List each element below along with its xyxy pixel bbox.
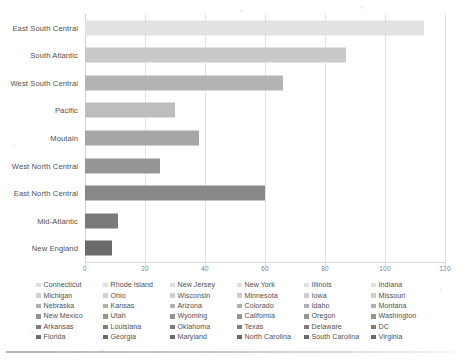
legend-item: Colorado — [237, 301, 302, 311]
legend-label: DC — [379, 323, 389, 331]
legend-label: Virginia — [379, 333, 403, 341]
bar-row: Moutain — [85, 124, 445, 152]
legend-label: Montana — [379, 302, 407, 310]
category-label: East South Central — [12, 23, 78, 32]
bar-row: East North Central — [85, 179, 445, 207]
bar-row: West North Central — [85, 152, 445, 180]
chart-legend: ConnecticutMichiganNebraskaNew MexicoArk… — [36, 280, 436, 342]
legend-label: Texas — [245, 323, 264, 331]
legend-label: California — [245, 312, 275, 320]
bar-row: Pacific — [85, 97, 445, 125]
bar-row: East South Central — [85, 14, 445, 42]
legend-item: Ohio — [103, 290, 168, 300]
legend-label: Indiana — [379, 281, 403, 289]
legend-swatch — [170, 304, 175, 309]
legend-label: Delaware — [312, 323, 342, 331]
legend-swatch — [237, 304, 242, 309]
legend-label: Kansas — [111, 302, 135, 310]
legend-item: Arkansas — [36, 322, 101, 332]
legend-label: Louisiana — [111, 323, 142, 331]
legend-swatch — [103, 335, 108, 340]
legend-label: North Carolina — [245, 333, 291, 341]
legend-label: Minnesota — [245, 292, 278, 300]
legend-label: Maryland — [178, 333, 208, 341]
bar — [85, 241, 112, 256]
x-axis-tick-label: 0 — [83, 265, 87, 272]
legend-item: Nebraska — [36, 301, 101, 311]
legend-item: Connecticut — [36, 280, 101, 290]
legend-swatch — [103, 325, 108, 330]
category-label: Pacific — [55, 106, 78, 115]
legend-swatch — [304, 304, 309, 309]
legend-swatch — [103, 304, 108, 309]
legend-item: Virginia — [371, 332, 436, 342]
legend-label: Wyoming — [178, 312, 208, 320]
x-axis-tick-label: 120 — [439, 265, 450, 272]
legend-label: Oklahoma — [178, 323, 211, 331]
legend-label: Arkansas — [44, 323, 74, 331]
legend-label: Florida — [44, 333, 66, 341]
legend-item: Utah — [103, 311, 168, 321]
legend-item: Delaware — [304, 322, 369, 332]
legend-swatch — [371, 335, 376, 340]
legend-swatch — [304, 293, 309, 298]
category-label: New England — [32, 244, 78, 253]
legend-item: Wisconsin — [170, 290, 235, 300]
legend-label: Washington — [379, 312, 417, 320]
category-label: West South Central — [10, 78, 78, 87]
legend-swatch — [36, 304, 41, 309]
bar — [85, 103, 175, 118]
legend-item: Wyoming — [170, 311, 235, 321]
legend-item: Georgia — [103, 332, 168, 342]
category-label: Mid-Atlantic — [37, 216, 78, 225]
legend-swatch — [36, 335, 41, 340]
category-label: South Atlantic — [30, 51, 78, 60]
grid-line — [445, 14, 446, 262]
legend-label: Georgia — [111, 333, 137, 341]
legend-item: New Jersey — [170, 280, 235, 290]
category-label: Moutain — [50, 133, 78, 142]
legend-swatch — [237, 335, 242, 340]
bar — [85, 75, 283, 90]
legend-swatch — [371, 283, 376, 288]
bar — [85, 213, 118, 228]
legend-swatch — [103, 314, 108, 319]
page-divider-rule — [6, 351, 454, 353]
legend-item: Michigan — [36, 290, 101, 300]
bar — [85, 158, 160, 173]
bar — [85, 186, 265, 201]
legend-swatch — [371, 293, 376, 298]
legend-label: New Jersey — [178, 281, 216, 289]
legend-item: Arizona — [170, 301, 235, 311]
legend-label: Michigan — [44, 292, 73, 300]
legend-label: Nebraska — [44, 302, 75, 310]
legend-swatch — [237, 325, 242, 330]
legend-item: New Mexico — [36, 311, 101, 321]
legend-swatch — [103, 293, 108, 298]
legend-label: Missouri — [379, 292, 406, 300]
bar — [85, 20, 424, 35]
legend-swatch — [170, 325, 175, 330]
legend-swatch — [304, 283, 309, 288]
legend-item: Louisiana — [103, 322, 168, 332]
category-label: West North Central — [12, 161, 78, 170]
bar-row: South Atlantic — [85, 42, 445, 70]
legend-label: Rhode Island — [111, 281, 153, 289]
legend-swatch — [237, 314, 242, 319]
legend-swatch — [170, 293, 175, 298]
legend-label: Iowa — [312, 292, 327, 300]
bar-chart: East South CentralSouth AtlanticWest Sou… — [0, 0, 464, 276]
legend-item: Oklahoma — [170, 322, 235, 332]
legend-item: California — [237, 311, 302, 321]
legend-item: Florida — [36, 332, 101, 342]
legend-label: New York — [245, 281, 275, 289]
legend-label: Utah — [111, 312, 126, 320]
x-axis-tick-label: 40 — [201, 265, 209, 272]
legend-label: Ohio — [111, 292, 126, 300]
legend-label: Wisconsin — [178, 292, 211, 300]
legend-item: Oregon — [304, 311, 369, 321]
legend-item: Rhode Island — [103, 280, 168, 290]
legend-swatch — [36, 314, 41, 319]
legend-item: Missouri — [371, 290, 436, 300]
legend-swatch — [170, 314, 175, 319]
